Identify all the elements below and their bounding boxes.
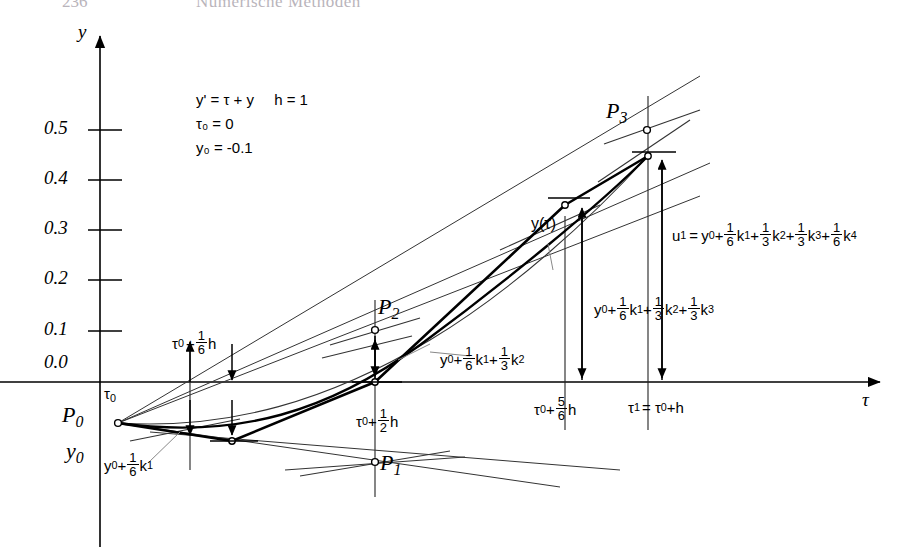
curve-label-y-tau: y(τ) [531, 216, 556, 232]
y-axis-ticks [88, 130, 122, 331]
y-tick-0-1: 0.1 [44, 319, 68, 338]
point-label-p3: P3 [606, 100, 627, 126]
node-vertical-lines [190, 96, 648, 497]
node-p1 [372, 459, 379, 466]
origin-label-tau0: τ0 [104, 386, 116, 404]
equation-step-text: h = 1 [274, 91, 308, 108]
exact-solution-curve [118, 156, 648, 424]
node-u-mid [562, 202, 568, 208]
xmark-tau0-5-6h: τ0 + 56 h [534, 396, 576, 423]
equation-tau0: τ₀ = 0 [196, 116, 234, 131]
value-label-y0-three-terms: y0 + 16 k1 + 13 k2 + 13 k3 [594, 296, 714, 323]
tau-axis-label: τ [862, 390, 869, 409]
point-label-p0: P0 [62, 404, 83, 430]
value-label-y0-1-6-k1: y0 + 16 k1 [104, 452, 153, 479]
equation-y0: y₀ = -0.1 [196, 140, 253, 155]
y-tick-0-5: 0.5 [44, 118, 68, 137]
y-tick-0-4: 0.4 [44, 168, 68, 187]
measure-arrows [190, 160, 662, 435]
origin-label-y0: y0 [66, 440, 84, 466]
figure-canvas: 236 Numerische Methoden [0, 0, 914, 547]
node-p2 [372, 327, 379, 334]
node-p3 [644, 127, 651, 134]
xmark-tau0-1-2h: τ0 + 12 h [356, 408, 398, 435]
node-p0 [115, 420, 122, 427]
y-tick-0-3: 0.3 [44, 218, 68, 237]
y-tick-0-0: 0.0 [44, 352, 68, 371]
point-label-p1: P1 [380, 452, 401, 478]
value-label-y0-1-6-k1-1-3-k2: y0 + 16 k1 + 13 k2 [440, 346, 525, 373]
y-axis-label: y [78, 22, 86, 41]
point-label-p2: P2 [378, 296, 399, 322]
value-label-u1: u1 = y0 + 16 k1 + 13 k2 + 13 k3 + 16 k4 [672, 222, 857, 249]
equation-ode-text: y' = τ + y [196, 91, 254, 108]
xmark-tau0-1-6h: τ0 + 16 h [172, 330, 216, 357]
rk-approx-curve [118, 156, 648, 428]
y-tick-0-2: 0.2 [44, 268, 68, 287]
xmark-tau1: τ1 = τ0 +h [628, 400, 684, 415]
node-u1 [645, 153, 651, 159]
equation-ode: y' = τ + y h = 1 [196, 92, 308, 107]
